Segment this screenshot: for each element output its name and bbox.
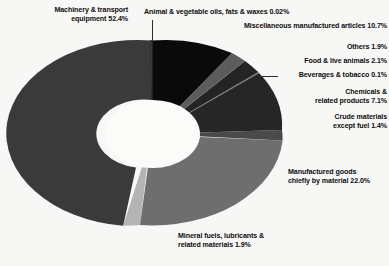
donut-hole <box>105 100 200 168</box>
label-crude-materials: Crude materials except fuel 1.4% <box>159 113 387 131</box>
label-machinery-transport-equipment: Machinery & transport equipment 52.4% <box>0 6 128 24</box>
donut-chart-figure: Machinery & transport equipment 52.4% An… <box>0 0 389 266</box>
label-animal-vegetable-oils: Animal & vegetable oils, fats & waxes 0.… <box>144 8 389 17</box>
donut-slices <box>6 40 282 226</box>
label-beverages-tobacco: Beverages & tobacco 0.1% <box>159 71 387 80</box>
donut-chart-canvas <box>0 0 389 266</box>
label-mineral-fuels: Mineral fuels, lubricants & related mate… <box>178 232 338 250</box>
label-chemicals-related-products: Chemicals & related products 7.1% <box>159 88 387 106</box>
leader-line-animal-oils <box>152 20 153 42</box>
label-food-live-animals: Food & live animals 2.1% <box>159 57 387 66</box>
label-manufactured-goods: Manufactured goods chiefly by material 2… <box>288 168 389 186</box>
label-miscellaneous-manufactured-articles: Miscellaneous manufactured articles 10.7… <box>159 22 387 31</box>
label-others: Others 1.9% <box>159 43 387 52</box>
